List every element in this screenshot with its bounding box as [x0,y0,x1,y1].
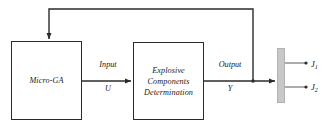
signal-variable-y: Y [208,84,252,93]
block-diagram: Micro-GA ExplosiveComponentsDeterminatio… [0,0,330,129]
objective-label-j1: J1 [311,59,318,69]
objective-label-j2: J2 [311,82,318,92]
signal-label-input: Input [88,60,128,69]
block-micro-ga: Micro-GA [11,41,82,120]
signal-label-output: Output [208,60,252,69]
signal-variable-u: U [88,84,128,93]
block-explosive-components-label: ExplosiveComponentsDetermination [144,65,193,98]
evaluation-bar [277,48,285,103]
block-explosive-components: ExplosiveComponentsDetermination [133,42,204,120]
feedback-junction-dot [251,79,254,82]
block-micro-ga-label: Micro-GA [29,75,63,86]
